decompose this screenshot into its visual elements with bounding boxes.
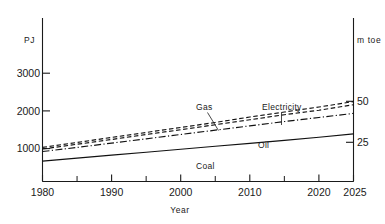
series-label-electricity: Electricity — [262, 102, 302, 112]
x-tick-label-2020: 2020 — [307, 186, 331, 198]
x-tick-label-1980: 1980 — [31, 186, 55, 198]
y2-tick-label-25: 25 — [357, 136, 369, 148]
x-tick-label-2000: 2000 — [169, 186, 193, 198]
x-tick-label-2025: 2025 — [343, 186, 367, 198]
y2-tick-label-50: 50 — [357, 95, 369, 107]
x-tick-label-2010: 2010 — [238, 186, 262, 198]
chart-canvas: 3000 2000 1000 PJ 50 25 m toe — [0, 0, 385, 224]
x-tick-label-1990: 1990 — [100, 186, 124, 198]
right-axis-unit-label: m toe — [357, 35, 381, 45]
series-label-oil: Oil — [258, 140, 269, 150]
y-tick-label-3000: 3000 — [17, 67, 41, 79]
energy-projection-line-chart: 3000 2000 1000 PJ 50 25 m toe — [0, 0, 385, 224]
y-tick-label-1000: 1000 — [17, 142, 41, 154]
y-tick-label-2000: 2000 — [17, 105, 41, 117]
x-axis-title: Year — [170, 205, 190, 215]
series-label-coal: Coal — [196, 161, 215, 171]
left-axis-unit-label: PJ — [24, 35, 35, 45]
series-label-gas: Gas — [196, 102, 213, 112]
